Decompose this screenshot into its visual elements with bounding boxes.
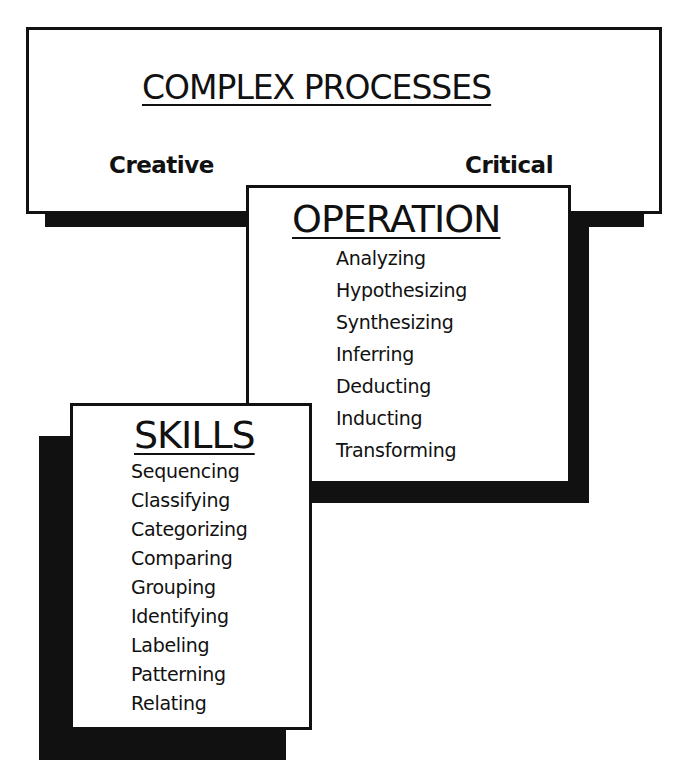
skills-item: Identifying — [131, 602, 248, 631]
skills-item: Relating — [131, 689, 248, 718]
skills-item: Comparing — [131, 544, 248, 573]
operation-item: Hypothesizing — [336, 274, 467, 306]
critical-label: Critical — [465, 152, 553, 178]
skills-item: Classifying — [131, 486, 248, 515]
complex-processes-title: COMPLEX PROCESSES — [142, 68, 491, 107]
creative-label: Creative — [109, 152, 214, 178]
operation-item: Deducting — [336, 370, 467, 402]
skills-item: Sequencing — [131, 457, 248, 486]
skills-item: Grouping — [131, 573, 248, 602]
skills-item: Labeling — [131, 631, 248, 660]
operation-item: Inferring — [336, 338, 467, 370]
operation-item: Inducting — [336, 402, 467, 434]
skills-title: SKILLS — [134, 413, 255, 457]
operation-item: Transforming — [336, 434, 467, 466]
skills-box: SKILLS Sequencing Classifying Categorizi… — [70, 403, 312, 730]
operation-list: Analyzing Hypothesizing Synthesizing Inf… — [336, 242, 467, 466]
skills-list: Sequencing Classifying Categorizing Comp… — [131, 457, 248, 718]
operation-title: OPERATION — [292, 197, 501, 241]
skills-item: Patterning — [131, 660, 248, 689]
operation-item: Analyzing — [336, 242, 467, 274]
operation-item: Synthesizing — [336, 306, 467, 338]
skills-item: Categorizing — [131, 515, 248, 544]
